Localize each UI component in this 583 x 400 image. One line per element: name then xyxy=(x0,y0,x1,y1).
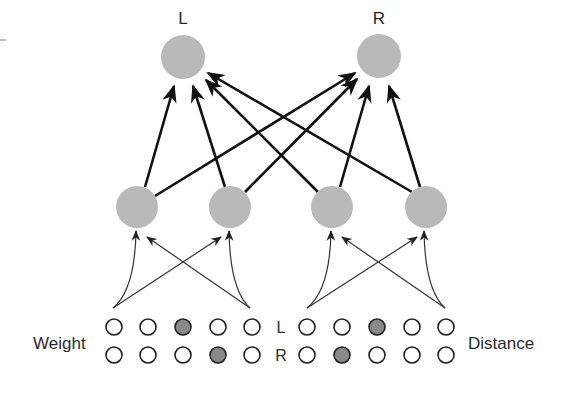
input-to-hidden-edges xyxy=(113,231,445,308)
edge-d-right-h4 xyxy=(424,231,445,308)
weight-label: Weight xyxy=(33,334,86,353)
distance-top-4 xyxy=(404,319,420,335)
edge-w-right-h1 xyxy=(147,237,250,308)
output-label-left: L xyxy=(178,9,187,28)
edge-w-left-h1 xyxy=(113,231,136,308)
output-node-right xyxy=(357,34,401,78)
distance-top-3 xyxy=(369,319,385,335)
hidden-layer xyxy=(116,186,447,228)
distance-bottom-2 xyxy=(334,347,350,363)
output-node-left xyxy=(161,35,205,79)
edge-h2-L xyxy=(193,86,225,187)
weight-bottom-5 xyxy=(244,347,260,363)
hidden-to-output-edges xyxy=(145,73,420,196)
weight-top-3 xyxy=(175,319,191,335)
row-label-top: L xyxy=(277,319,286,336)
neural-network-diagram: L R Weight Dist xyxy=(0,0,583,400)
output-layer: L R xyxy=(161,9,401,79)
edge-h1-L xyxy=(145,86,174,187)
weight-top-4 xyxy=(210,319,226,335)
output-label-right: R xyxy=(373,9,385,28)
distance-label: Distance xyxy=(468,334,534,353)
edge-d-left-h4 xyxy=(307,237,417,308)
hidden-node-3 xyxy=(311,186,353,228)
weight-bottom-3 xyxy=(175,347,191,363)
edge-w-right-h2 xyxy=(229,231,250,308)
distance-bottom-5 xyxy=(438,347,454,363)
edge-d-left-h3 xyxy=(307,231,331,308)
hidden-node-2 xyxy=(209,186,251,228)
distance-bottom-1 xyxy=(299,347,315,363)
weight-bottom-4 xyxy=(210,347,226,363)
row-label-bottom: R xyxy=(275,347,287,364)
edge-h1-R xyxy=(155,73,355,196)
weight-top-1 xyxy=(106,319,122,335)
edge-d-right-h3 xyxy=(342,237,445,308)
weight-top-5 xyxy=(244,319,260,335)
hidden-node-1 xyxy=(116,186,158,228)
distance-bottom-3 xyxy=(369,347,385,363)
weight-top-2 xyxy=(140,319,156,335)
distance-top-1 xyxy=(299,319,315,335)
edge-w-left-h2 xyxy=(113,237,221,308)
distance-top-5 xyxy=(438,319,454,335)
edge-h4-R xyxy=(389,86,420,187)
weight-bottom-2 xyxy=(140,347,156,363)
distance-bottom-4 xyxy=(404,347,420,363)
edge-h4-L xyxy=(208,73,412,192)
distance-top-2 xyxy=(334,319,350,335)
edge-h3-R xyxy=(340,86,369,187)
hidden-node-4 xyxy=(405,186,447,228)
weight-bottom-1 xyxy=(106,347,122,363)
